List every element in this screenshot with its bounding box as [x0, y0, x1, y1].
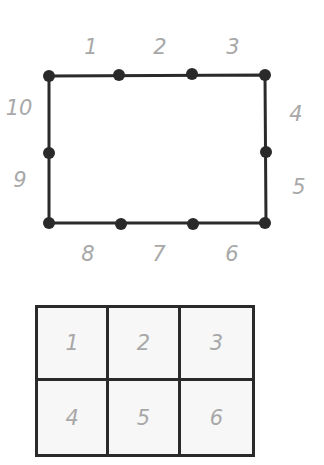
- grid-cell-6: 6: [181, 381, 252, 454]
- point-label-5: 5: [292, 177, 305, 198]
- point-label-6: 6: [225, 244, 238, 265]
- point-dot: [43, 217, 55, 229]
- point-label-9: 9: [13, 170, 26, 191]
- grid-cell-2: 2: [109, 308, 180, 381]
- point-label-4: 4: [289, 104, 302, 125]
- point-dot: [260, 146, 272, 158]
- numbered-grid: 1 2 3 4 5 6: [35, 305, 255, 457]
- point-label-7: 7: [152, 244, 165, 265]
- point-dot: [187, 218, 199, 230]
- grid-cell-4: 4: [38, 381, 109, 454]
- point-dot: [259, 69, 271, 81]
- point-dot: [259, 217, 271, 229]
- grid-cell-3: 3: [181, 308, 252, 381]
- point-dot: [115, 218, 127, 230]
- grid-cell-5: 5: [109, 381, 180, 454]
- point-label-2: 2: [153, 37, 166, 58]
- point-dot: [43, 147, 55, 159]
- point-dot: [43, 70, 55, 82]
- point-label-10: 10: [6, 98, 33, 119]
- point-dot: [113, 69, 125, 81]
- point-dot: [186, 68, 198, 80]
- point-label-3: 3: [226, 37, 239, 58]
- grid-cell-1: 1: [38, 308, 109, 381]
- point-label-1: 1: [84, 37, 97, 58]
- point-label-8: 8: [81, 244, 94, 265]
